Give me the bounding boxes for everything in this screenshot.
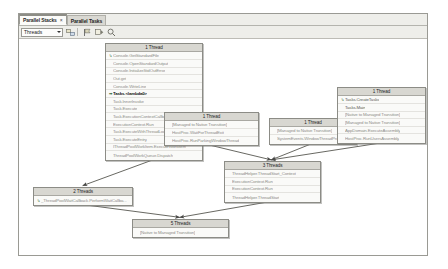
stack-frame-label: Task.ExecuteWithThreadLocal <box>113 129 168 134</box>
stack-frame[interactable]: ThreadPoolWorkQueue.Dispatch <box>106 151 202 159</box>
stack-frame-label: Tasks.CreateTasks <box>345 97 379 102</box>
stack-node-five-threads[interactable]: 5 Threads[Native to Managed Transition] <box>132 219 229 238</box>
view-selector-dropdown[interactable]: Threads <box>21 28 63 37</box>
stack-frame[interactable]: HostProc.RunParkingWindowThread <box>165 137 258 145</box>
stack-frame-label: Tasks.Main <box>345 105 365 110</box>
stack-frame-label: ThreadPoolWorkQueue.Dispatch <box>113 153 173 158</box>
tab-strip: Parallel Stacks × Parallel Tasks <box>19 14 427 26</box>
toolbar: Threads <box>19 26 427 39</box>
stack-frame-label: SystemEvents.WindowThreadProc <box>277 136 341 141</box>
stack-frame-label: [Managed to Native Transition] <box>345 120 400 125</box>
edge-create-to-three <box>271 143 379 160</box>
view-selector-value: Threads <box>24 29 42 35</box>
stack-node-parking-window-header: 1 Thread <box>165 113 258 121</box>
stack-frame[interactable]: ExecutionContext.Run <box>225 186 320 194</box>
tab-parallel-tasks-label: Parallel Tasks <box>71 18 103 24</box>
stack-node-parking-window-frames: [Managed to Native Transition]HostProc.W… <box>165 121 258 145</box>
stack-node-parking-window[interactable]: 1 Thread[Managed to Native Transition]Ho… <box>164 112 259 146</box>
show-only-flagged-button[interactable] <box>82 27 92 37</box>
stack-node-create-tasks-header: 1 Thread <box>338 88 425 96</box>
stack-frame-label: ThreadHelper.ThreadStart <box>232 195 279 200</box>
stack-node-three-threads-frames: ThreadHelper.ThreadStart_ContextExecutio… <box>225 170 320 202</box>
zoom-control-button[interactable] <box>106 27 116 37</box>
stack-frame[interactable]: [Native to Managed Transition] <box>338 112 425 120</box>
stack-frame[interactable]: ↳Tasks.CreateTasks <box>338 97 425 105</box>
stack-frame-label: Tasks.<lambda0> <box>113 91 147 96</box>
stack-frame[interactable]: Console.InitializeStdOutError <box>106 68 202 76</box>
tab-parallel-tasks[interactable]: Parallel Tasks <box>67 15 107 25</box>
close-icon[interactable]: × <box>60 17 63 23</box>
stack-node-five-threads-header: 5 Threads <box>133 220 228 228</box>
stack-node-three-threads-header: 3 Threads <box>225 162 320 170</box>
stack-frame[interactable]: Out.get <box>106 75 202 83</box>
stack-frame[interactable]: Console.WriteLine <box>106 83 202 91</box>
stack-frame[interactable]: ExecutionContext.Run <box>225 178 320 186</box>
tab-parallel-stacks-label: Parallel Stacks <box>23 17 57 23</box>
toolbar-separator <box>77 28 78 36</box>
stack-frame-label: HostProc.RunUsersAssembly <box>345 136 399 141</box>
stack-node-three-threads[interactable]: 3 ThreadsThreadHelper.ThreadStart_Contex… <box>224 161 321 203</box>
stack-frame-label: Console.GetStandardFile <box>113 53 159 58</box>
stack-frame-label: HostProc.WaitForThreadExit <box>172 130 224 135</box>
stack-frame[interactable]: Task.InnerInvoke <box>106 98 202 106</box>
stack-node-five-threads-frames: [Native to Managed Transition] <box>133 228 228 237</box>
auto-scroll-icon <box>95 28 104 37</box>
stack-frame-label: Console.InitializeStdOutError <box>113 68 165 73</box>
auto-scroll-button[interactable] <box>94 27 104 37</box>
method-view-icon <box>66 28 75 37</box>
stack-frame[interactable]: ThreadHelper.ThreadStart_Context <box>225 171 320 179</box>
stack-node-create-tasks[interactable]: 1 Thread↳Tasks.CreateTasksTasks.Main[Nat… <box>337 87 426 144</box>
stack-frame[interactable]: [Native to Managed Transition] <box>133 229 228 237</box>
stack-frame[interactable]: ↳_ThreadPoolWaitCallback.PerformWaitCall… <box>34 197 132 205</box>
edge-parking-to-three <box>211 145 272 160</box>
toggle-method-view-button[interactable] <box>65 27 75 37</box>
stack-frame-label: Console.WriteLine <box>113 84 146 89</box>
zoom-icon <box>107 28 116 37</box>
stack-frame[interactable]: ↳Console.GetStandardFile <box>106 53 202 61</box>
stack-frame-label: ExecutionContext.Run <box>232 186 273 191</box>
stack-frame-label: _ThreadPoolWaitCallback.PerformWaitCallb… <box>41 198 127 203</box>
stack-frame-label: [Native to Managed Transition] <box>140 230 195 235</box>
stack-frame-label: [Native to Managed Transition] <box>345 112 400 117</box>
stack-frame-label: HostProc.RunParkingWindowThread <box>172 138 239 143</box>
stack-frame-label: Out.get <box>113 76 126 81</box>
tab-parallel-stacks[interactable]: Parallel Stacks × <box>19 14 67 25</box>
edge-main-to-two <box>83 160 154 186</box>
stack-frame[interactable]: [Managed to Native Transition] <box>338 119 425 127</box>
stack-node-main-thread-header: 1 Thread <box>106 44 202 52</box>
stack-frame-label: Task.InnerInvoke <box>113 99 144 104</box>
stack-frame[interactable]: [Managed to Native Transition] <box>165 122 258 130</box>
stack-frame-label: [Managed to Native Transition] <box>172 122 227 127</box>
stack-frame[interactable]: ⇒Tasks.<lambda0> <box>106 90 202 98</box>
stack-frame[interactable]: AppDomain.ExecuteAssembly <box>338 127 425 135</box>
stack-node-two-threads[interactable]: 2 Threads↳_ThreadPoolWaitCallback.Perfor… <box>33 187 133 206</box>
stack-frame-label: Task.ExecutionContextCallback <box>113 114 170 119</box>
stack-frame-label: AppDomain.ExecuteAssembly <box>345 128 400 133</box>
edge-three-to-five <box>180 201 272 217</box>
edge-system-to-three <box>271 144 311 160</box>
parallel-stacks-window: Parallel Stacks × Parallel Tasks Threads <box>18 13 428 256</box>
stack-frame-label: ThreadHelper.ThreadStart_Context <box>232 171 296 176</box>
stack-graph-canvas[interactable]: 1 Thread↳Console.GetStandardFileConsole.… <box>19 39 427 255</box>
stack-frame[interactable]: HostProc.WaitForThreadExit <box>165 129 258 137</box>
stack-frame-label: [Managed to Native Transition] <box>277 128 332 133</box>
stack-frame[interactable]: Tasks.Main <box>338 104 425 112</box>
stack-node-create-tasks-frames: ↳Tasks.CreateTasksTasks.Main[Native to M… <box>338 96 425 143</box>
stack-node-two-threads-header: 2 Threads <box>34 188 132 196</box>
stack-node-two-threads-frames: ↳_ThreadPoolWaitCallback.PerformWaitCall… <box>34 196 132 205</box>
stack-frame[interactable]: HostProc.RunUsersAssembly <box>338 134 425 142</box>
stack-frame[interactable]: ThreadHelper.ThreadStart <box>225 193 320 201</box>
stack-frame-label: ExecutionContext.Run <box>232 179 273 184</box>
chevron-down-icon <box>57 31 61 33</box>
stack-frame-label: Task.Execute <box>113 106 137 111</box>
stack-frame[interactable]: Console.OpenStandardOutput <box>106 60 202 68</box>
flag-icon <box>83 28 92 37</box>
stack-frame-label: ExecutionContext.Run <box>113 122 154 127</box>
stack-frame-label: Console.OpenStandardOutput <box>113 61 168 66</box>
stack-frame-label: Task.ExecuteEntry <box>113 137 147 142</box>
edge-two-to-five <box>83 205 180 218</box>
